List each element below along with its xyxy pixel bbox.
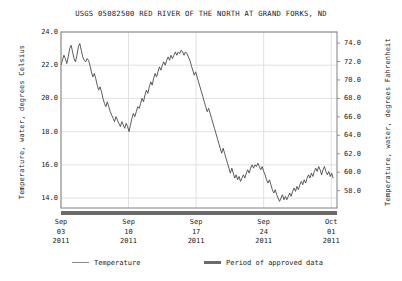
y-tick-label-fahrenheit: 62.0 (344, 150, 384, 158)
y-tick-label-celsius: 18.0 (18, 128, 58, 136)
y-tick-label-celsius: 24.0 (18, 28, 58, 36)
y-tick-label-celsius: 14.0 (18, 194, 58, 202)
approved-data-bar (61, 211, 337, 215)
y-tick-label-fahrenheit: 74.0 (344, 39, 384, 47)
y-axis-right-label: Temperature, water, degrees Fahrenheit (384, 37, 392, 207)
usgs-hydrograph-figure: USGS 05082500 RED RIVER OF THE NORTH AT … (0, 0, 402, 281)
legend-bar-swatch-approved (204, 261, 221, 264)
x-tick-label-date: Oct 01 2011 (301, 218, 361, 247)
y-tick-label-celsius: 16.0 (18, 161, 58, 169)
x-tick-label-date: Sep 03 2011 (31, 218, 91, 247)
y-tick-label-fahrenheit: 70.0 (344, 76, 384, 84)
y-tick-label-fahrenheit: 66.0 (344, 113, 384, 121)
x-tick-label-date: Sep 24 2011 (234, 218, 294, 247)
legend-label-approved-data: Period of approved data (226, 258, 323, 268)
y-tick-label-celsius: 20.0 (18, 94, 58, 102)
y-tick-label-fahrenheit: 72.0 (344, 58, 384, 66)
y-tick-label-fahrenheit: 60.0 (344, 168, 384, 176)
y-tick-label-fahrenheit: 68.0 (344, 94, 384, 102)
x-tick-label-date: Sep 17 2011 (166, 218, 226, 247)
legend-line-swatch-temperature (72, 262, 89, 263)
plot-background (61, 32, 337, 208)
y-tick-label-celsius: 22.0 (18, 61, 58, 69)
legend-label-temperature: Temperature (94, 258, 140, 268)
chart-legend: Temperature Period of approved data (0, 258, 402, 276)
x-tick-label-date: Sep 10 2011 (99, 218, 159, 247)
y-tick-label-fahrenheit: 58.0 (344, 187, 384, 195)
chart-title: USGS 05082500 RED RIVER OF THE NORTH AT … (0, 9, 402, 18)
y-tick-label-fahrenheit: 64.0 (344, 131, 384, 139)
